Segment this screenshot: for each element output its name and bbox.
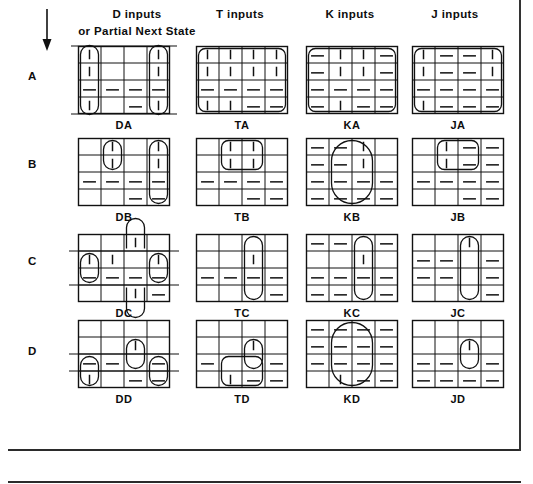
kmap-grid [196, 138, 288, 206]
kmap-kc: KC [306, 234, 398, 302]
column-header-d-subtitle: or Partial Next State [62, 25, 212, 37]
kmap-db: DB [78, 138, 170, 206]
kmap-ja: JA [412, 46, 504, 114]
column-header-t-inputs: T inputs [185, 8, 295, 20]
kmap-grid [306, 234, 398, 302]
row-label-b: B [28, 158, 36, 170]
column-header-d-title: D inputs [112, 8, 161, 20]
kmap-kd: KD [306, 320, 398, 388]
kmap-caption-db: DB [78, 211, 170, 223]
row-label-c: C [28, 255, 36, 267]
kmap-grid [78, 234, 170, 302]
kmap-tb: TB [196, 138, 288, 206]
kmap-caption-kb: KB [306, 211, 398, 223]
kmap-caption-td: TD [196, 393, 288, 405]
kmap-grid [412, 320, 504, 388]
kmap-caption-kc: KC [306, 307, 398, 319]
kmap-caption-tc: TC [196, 307, 288, 319]
kmap-grid [78, 46, 170, 114]
kmap-grid [196, 46, 288, 114]
kmap-dd: DD [78, 320, 170, 388]
figure-page: D inputs or Partial Next State T inputs … [0, 0, 533, 484]
kmap-caption-kd: KD [306, 393, 398, 405]
page-right-edge [519, 0, 521, 451]
kmap-grid [412, 46, 504, 114]
kmap-caption-dc: DC [78, 307, 170, 319]
kmap-jd: JD [412, 320, 504, 388]
row-label-d: D [28, 345, 36, 357]
kmap-grid [306, 46, 398, 114]
kmap-ka: KA [306, 46, 398, 114]
kmap-caption-jb: JB [412, 211, 504, 223]
kmap-grid [306, 138, 398, 206]
footer-rule-bottom [8, 481, 521, 483]
kmap-caption-tb: TB [196, 211, 288, 223]
kmap-da: DA [78, 46, 170, 114]
kmap-ta: TA [196, 46, 288, 114]
column-header-k-title: K inputs [325, 8, 374, 20]
down-arrow-icon [36, 8, 58, 52]
kmap-kb: KB [306, 138, 398, 206]
kmap-caption-da: DA [78, 119, 170, 131]
column-header-t-title: T inputs [216, 8, 264, 20]
column-header-k-inputs: K inputs [295, 8, 405, 20]
kmap-grid [196, 320, 288, 388]
kmap-grid [196, 234, 288, 302]
kmap-caption-jd: JD [412, 393, 504, 405]
column-header-j-inputs: J inputs [400, 8, 510, 20]
kmap-caption-dd: DD [78, 393, 170, 405]
kmap-grid [412, 234, 504, 302]
kmap-caption-ja: JA [412, 119, 504, 131]
kmap-caption-ta: TA [196, 119, 288, 131]
kmap-tc: TC [196, 234, 288, 302]
kmap-td: TD [196, 320, 288, 388]
kmap-grid [306, 320, 398, 388]
kmap-jb: JB [412, 138, 504, 206]
column-header-j-title: J inputs [431, 8, 478, 20]
kmap-grid [412, 138, 504, 206]
kmap-grid [78, 320, 170, 388]
kmap-jc: JC [412, 234, 504, 302]
footer-rule-top [8, 449, 521, 451]
kmap-caption-jc: JC [412, 307, 504, 319]
kmap-dc: DC [78, 234, 170, 302]
kmap-caption-ka: KA [306, 119, 398, 131]
kmap-grid [78, 138, 170, 206]
row-label-a: A [28, 70, 36, 82]
